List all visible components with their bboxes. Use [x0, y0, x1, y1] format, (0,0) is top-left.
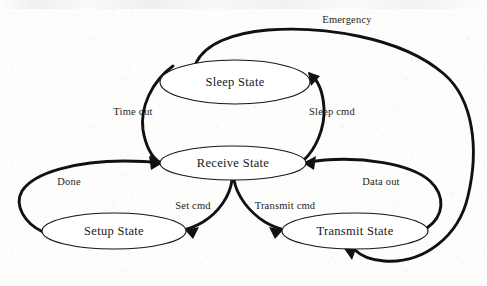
state-label-sleep: Sleep State	[205, 75, 264, 89]
state-node-transmit[interactable]: Transmit State	[282, 213, 428, 249]
state-diagram-canvas: Emergency Time out Sleep cmd Done Data o…	[0, 0, 487, 286]
transition-done-label: Done	[57, 176, 81, 187]
transition-transmit-cmd-label: Transmit cmd	[255, 200, 316, 211]
transition-set-cmd-label: Set cmd	[175, 200, 211, 211]
transition-timeout-label: Time out	[113, 106, 152, 117]
transition-emergency-label: Emergency	[322, 14, 372, 25]
state-node-receive[interactable]: Receive State	[160, 146, 306, 180]
state-node-sleep[interactable]: Sleep State	[160, 60, 310, 104]
transition-sleep-cmd-label: Sleep cmd	[309, 106, 355, 117]
state-diagram-figure: Emergency Time out Sleep cmd Done Data o…	[0, 0, 487, 286]
transition-data-out-label: Data out	[362, 176, 399, 187]
state-node-setup[interactable]: Setup State	[42, 213, 186, 249]
transition-sleep-cmd: Sleep cmd	[303, 72, 355, 161]
state-label-transmit: Transmit State	[316, 224, 393, 238]
state-label-setup: Setup State	[84, 224, 144, 238]
state-label-receive: Receive State	[197, 156, 269, 170]
